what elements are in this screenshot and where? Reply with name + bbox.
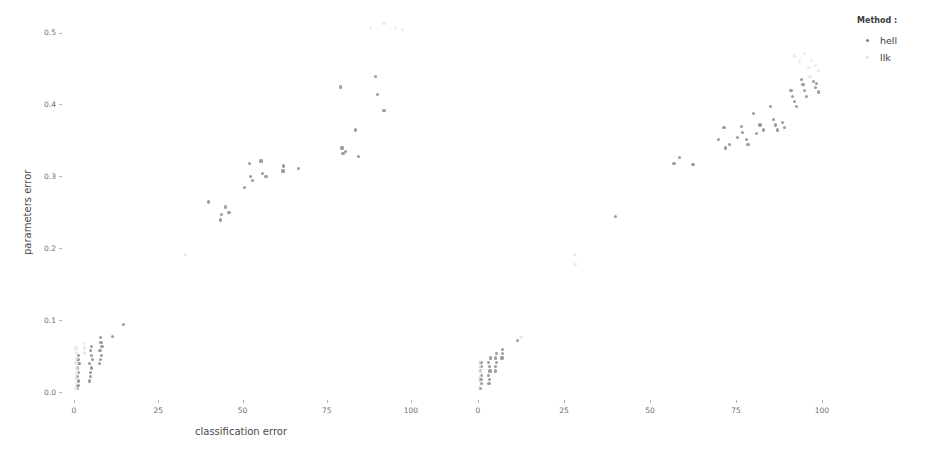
x-tick-mark <box>411 400 412 403</box>
x-tick-mark <box>822 400 823 403</box>
x-tick-label: 25 <box>549 406 579 415</box>
x-tick-mark <box>158 400 159 403</box>
legend-point-icon <box>861 56 874 59</box>
x-tick-label: 0 <box>463 406 493 415</box>
x-tick-label: 100 <box>396 406 426 415</box>
legend-item-label: llk <box>880 52 891 63</box>
x-tick-mark <box>74 400 75 403</box>
legend-item-hell[interactable]: hell <box>861 32 933 49</box>
legend-items: hellllk <box>857 32 933 66</box>
legend-item-llk[interactable]: llk <box>861 49 933 66</box>
x-tick-label: 50 <box>228 406 258 415</box>
x-tick-label: 75 <box>312 406 342 415</box>
x-axis-title: classification error <box>195 426 287 437</box>
x-tick-label: 25 <box>143 406 173 415</box>
x-tick-mark <box>736 400 737 403</box>
x-tick-label: 0 <box>59 406 89 415</box>
legend: Method : hellllk <box>857 16 933 66</box>
x-tick-label: 100 <box>807 406 837 415</box>
x-tick-mark <box>478 400 479 403</box>
x-tick-mark <box>564 400 565 403</box>
legend-item-label: hell <box>880 35 897 46</box>
x-tick-mark <box>327 400 328 403</box>
x-tick-label: 50 <box>635 406 665 415</box>
legend-title: Method : <box>857 16 933 25</box>
legend-point-icon <box>861 39 874 42</box>
x-tick-label: 75 <box>721 406 751 415</box>
x-tick-mark <box>243 400 244 403</box>
x-tick-mark <box>650 400 651 403</box>
scatter-plot-figure: parameters error 0.50.40.30.20.10.0 0255… <box>0 0 935 462</box>
facet-panel-2 <box>0 0 935 462</box>
